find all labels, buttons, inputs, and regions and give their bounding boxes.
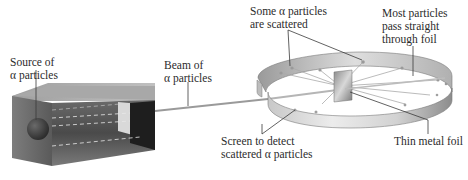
rutherford-diagram: Source of α particles Beam of α particle… — [0, 0, 468, 180]
label-scattered: Some α particles are scattered — [250, 5, 327, 31]
detection-screen-back — [258, 52, 452, 92]
alpha-beam — [155, 99, 268, 111]
thin-metal-foil — [334, 70, 352, 102]
label-beam: Beam of α particles — [164, 59, 212, 85]
alpha-source-sphere — [27, 118, 49, 140]
label-foil: Thin metal foil — [394, 135, 463, 148]
label-most-pass: Most particles pass straight through foi… — [382, 7, 447, 46]
label-source: Source of α particles — [10, 56, 58, 82]
label-screen: Screen to detect scattered α particles — [221, 135, 313, 161]
